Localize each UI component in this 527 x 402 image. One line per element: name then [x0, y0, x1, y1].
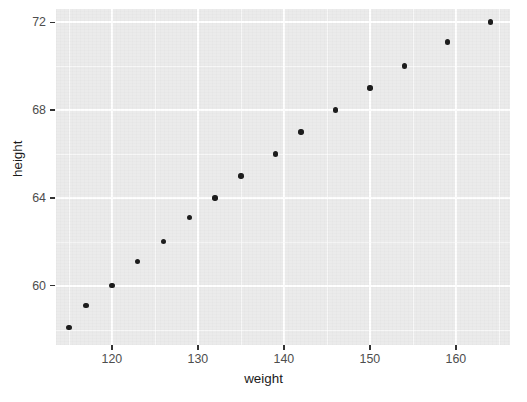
- y-axis-title: height: [11, 141, 24, 177]
- data-point: [445, 39, 450, 44]
- y-tick-mark: [50, 109, 55, 110]
- x-axis-title: weight: [0, 372, 527, 385]
- x-tick-label: 130: [188, 353, 209, 365]
- x-tick-mark: [111, 345, 112, 350]
- y-tick-label: 64: [32, 192, 46, 204]
- data-point: [212, 195, 217, 200]
- data-point: [402, 63, 407, 68]
- data-point: [273, 151, 278, 156]
- data-point: [135, 259, 140, 264]
- x-tick-mark: [455, 345, 456, 350]
- gridline-major-v: [111, 9, 113, 345]
- gridline-minor-v: [327, 9, 328, 345]
- x-tick-label: 140: [274, 353, 295, 365]
- plot-panel: [56, 9, 510, 345]
- x-tick-label: 160: [445, 353, 466, 365]
- gridline-minor-v: [69, 9, 70, 345]
- y-tick-label: 60: [32, 280, 46, 292]
- data-point: [109, 283, 114, 288]
- data-point: [238, 173, 243, 178]
- y-axis-tick-labels: 72686460: [0, 0, 46, 402]
- data-point: [66, 325, 71, 330]
- y-tick-mark: [50, 22, 55, 23]
- scatter-plot-figure: 72686460 height 120130140150160 weight: [0, 0, 527, 402]
- gridline-minor-v: [499, 9, 500, 345]
- gridline-minor-v: [413, 9, 414, 345]
- data-point: [333, 107, 338, 112]
- gridline-major-v: [455, 9, 457, 345]
- gridline-minor-v: [155, 9, 156, 345]
- x-tick-label: 150: [359, 353, 380, 365]
- data-point: [298, 129, 303, 134]
- data-point: [488, 19, 493, 24]
- gridline-major-v: [283, 9, 285, 345]
- gridline-major-v: [197, 9, 199, 345]
- data-point: [83, 303, 88, 308]
- data-point: [161, 239, 166, 244]
- x-tick-mark: [283, 345, 284, 350]
- y-tick-label: 72: [32, 16, 46, 28]
- y-tick-mark: [50, 285, 55, 286]
- gridline-major-v: [369, 9, 371, 345]
- x-tick-label: 120: [102, 353, 123, 365]
- x-tick-mark: [197, 345, 198, 350]
- y-tick-label: 68: [32, 104, 46, 116]
- data-point: [367, 85, 372, 90]
- x-tick-mark: [369, 345, 370, 350]
- y-tick-mark: [50, 197, 55, 198]
- data-point: [187, 215, 192, 220]
